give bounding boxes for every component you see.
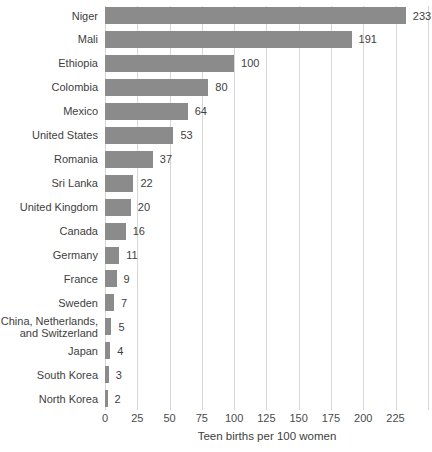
value-label: 53 bbox=[180, 129, 192, 141]
value-label: 7 bbox=[121, 297, 127, 309]
bar bbox=[105, 270, 117, 287]
gridline bbox=[299, 6, 300, 410]
category-label: France bbox=[0, 273, 98, 285]
bar bbox=[105, 151, 153, 168]
category-label: Germany bbox=[0, 249, 98, 261]
category-label: United States bbox=[0, 129, 98, 141]
value-label: 100 bbox=[241, 57, 259, 69]
bar bbox=[105, 223, 126, 240]
gridline bbox=[428, 6, 429, 410]
x-tick-label: 225 bbox=[376, 412, 416, 424]
value-label: 4 bbox=[117, 345, 123, 357]
category-label: Mexico bbox=[0, 105, 98, 117]
category-label: Mali bbox=[0, 33, 98, 45]
value-label: 9 bbox=[124, 273, 130, 285]
category-label: China, Netherlands, and Switzerland bbox=[0, 315, 98, 339]
category-label: Romania bbox=[0, 153, 98, 165]
gridline bbox=[396, 6, 397, 410]
value-label: 3 bbox=[116, 369, 122, 381]
bar bbox=[105, 31, 352, 48]
value-label: 233 bbox=[413, 10, 431, 22]
bar bbox=[105, 294, 114, 311]
category-label: Sri Lanka bbox=[0, 177, 98, 189]
category-label: Ethiopia bbox=[0, 57, 98, 69]
gridline bbox=[234, 6, 235, 410]
bar bbox=[105, 247, 119, 264]
category-label: Sweden bbox=[0, 297, 98, 309]
bar bbox=[105, 342, 110, 359]
category-label: South Korea bbox=[0, 369, 98, 381]
category-label: United Kingdom bbox=[0, 201, 98, 213]
bar bbox=[105, 199, 131, 216]
value-label: 80 bbox=[215, 81, 227, 93]
bar bbox=[105, 55, 234, 72]
value-label: 16 bbox=[133, 225, 145, 237]
value-label: 2 bbox=[115, 393, 121, 405]
bar bbox=[105, 103, 188, 120]
gridline bbox=[363, 6, 364, 410]
teen-births-bar-chart: Niger233Mali191Ethiopia100Colombia80Mexi… bbox=[0, 0, 432, 452]
category-label: Colombia bbox=[0, 81, 98, 93]
category-label: Canada bbox=[0, 225, 98, 237]
gridline bbox=[331, 6, 332, 410]
value-label: 37 bbox=[160, 153, 172, 165]
value-label: 11 bbox=[126, 249, 137, 261]
bar bbox=[105, 318, 111, 335]
x-axis-title: Teen births per 100 women bbox=[105, 430, 429, 442]
gridline bbox=[266, 6, 267, 410]
bar bbox=[105, 79, 208, 96]
bar bbox=[105, 7, 406, 24]
value-label: 64 bbox=[195, 105, 207, 117]
value-label: 191 bbox=[359, 33, 377, 45]
bar bbox=[105, 175, 133, 192]
value-label: 22 bbox=[140, 177, 152, 189]
value-label: 20 bbox=[138, 201, 150, 213]
category-label: North Korea bbox=[0, 393, 98, 405]
value-label: 5 bbox=[118, 321, 124, 333]
category-label: Niger bbox=[0, 10, 98, 22]
bar bbox=[105, 127, 173, 144]
category-label: Japan bbox=[0, 345, 98, 357]
bar bbox=[105, 366, 109, 383]
bar bbox=[105, 390, 108, 407]
